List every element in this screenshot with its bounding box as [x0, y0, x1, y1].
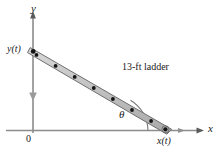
- figure-canvas: y x y(t) x(t) 0 θ 13-ft ladder: [0, 0, 221, 157]
- y-axis-label: y: [31, 3, 36, 14]
- ladder-diagram-svg: [0, 0, 221, 157]
- x-axis-inner-arrow-icon: [178, 128, 185, 133]
- ladder-length-label: 13-ft ladder: [122, 62, 169, 72]
- wall-contact-label: y(t): [7, 44, 21, 54]
- angle-label: θ: [119, 109, 124, 120]
- x-axis-label: x: [208, 123, 213, 134]
- x-axis: [6, 128, 204, 134]
- floor-contact-label: x(t): [157, 136, 171, 146]
- origin-label: 0: [26, 134, 31, 144]
- slide-down-arrow-icon: [29, 60, 37, 101]
